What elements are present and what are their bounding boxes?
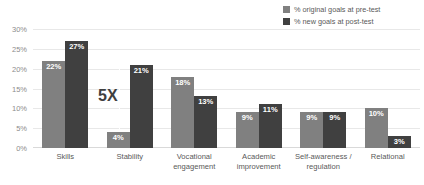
bar-value-label: 3% xyxy=(394,137,405,147)
bar-group-self-awareness-regulation: 9% 9% xyxy=(291,29,356,148)
bar-value-label: 13% xyxy=(198,97,213,107)
x-axis-label-self-awareness-regulation: Self-awareness / regulation xyxy=(291,152,356,172)
bar-value-label: 21% xyxy=(134,66,149,76)
y-tick-label-6: 0% xyxy=(0,144,27,153)
legend-label-series-1: % new goals at post-test xyxy=(294,17,374,26)
bar-academic-improvement-series-1[interactable]: 11% xyxy=(259,104,282,148)
y-tick-label-2: 20% xyxy=(0,64,27,73)
x-axis-label-line: Academic xyxy=(229,152,290,162)
y-tick-label-1: 25% xyxy=(0,44,27,53)
bar-value-label: 22% xyxy=(46,62,61,72)
bar-chart: % original goals at pre-test % new goals… xyxy=(0,0,424,185)
bar-relational-series-1[interactable]: 3% xyxy=(388,136,411,148)
bar-group-skills: 22% 27% xyxy=(33,29,98,148)
bar-value-label: 27% xyxy=(69,42,84,52)
legend-item-original-goals[interactable]: % original goals at pre-test xyxy=(283,4,380,14)
bar-vocational-engagement-series-1[interactable]: 13% xyxy=(194,96,217,148)
bar-value-label: 11% xyxy=(263,105,278,115)
x-axis-label-line: Vocational xyxy=(164,152,225,162)
x-axis-label-vocational-engagement: Vocational engagement xyxy=(162,152,227,172)
y-tick-label-3: 15% xyxy=(0,84,27,93)
legend-item-new-goals[interactable]: % new goals at post-test xyxy=(283,16,380,26)
chart-legend: % original goals at pre-test % new goals… xyxy=(283,4,380,26)
bar-self-awareness-regulation-series-1[interactable]: 9% xyxy=(323,112,346,148)
legend-label-series-0: % original goals at pre-test xyxy=(294,5,380,14)
x-axis-label-line: engagement xyxy=(164,162,225,172)
x-axis-label-line: Stability xyxy=(100,152,161,162)
y-tick-label-4: 10% xyxy=(0,104,27,113)
bar-skills-series-0[interactable]: 22% xyxy=(42,61,65,148)
x-axis-label-line: regulation xyxy=(293,162,354,172)
bar-value-label: 4% xyxy=(113,133,124,143)
x-axis-label-stability: Stability xyxy=(98,152,163,172)
x-axis-label-line: improvement xyxy=(229,162,290,172)
x-axis-label-academic-improvement: Academic improvement xyxy=(227,152,292,172)
x-axis-label-line: Self-awareness / xyxy=(293,152,354,162)
bar-vocational-engagement-series-0[interactable]: 18% xyxy=(171,77,194,148)
bar-stability-series-0[interactable]: 4% xyxy=(107,132,130,148)
bar-value-label: 9% xyxy=(306,113,317,123)
bar-groups: 22% 27% 4% 21% xyxy=(33,29,420,148)
bar-relational-series-0[interactable]: 10% xyxy=(365,108,388,148)
y-tick-label-5: 5% xyxy=(0,124,27,133)
y-tick-label-0: 30% xyxy=(0,25,27,34)
plot-area: 30% 25% 20% 15% 10% 5% 0% 22% 27% xyxy=(33,29,420,148)
bar-group-relational: 10% 3% xyxy=(356,29,421,148)
bar-group-academic-improvement: 9% 11% xyxy=(227,29,292,148)
bar-group-vocational-engagement: 18% 13% xyxy=(162,29,227,148)
bar-value-label: 9% xyxy=(242,113,253,123)
bar-value-label: 9% xyxy=(329,113,340,123)
bar-value-label: 10% xyxy=(369,109,384,119)
legend-swatch-icon-series-1 xyxy=(283,18,290,25)
bar-academic-improvement-series-0[interactable]: 9% xyxy=(236,112,259,148)
legend-swatch-icon-series-0 xyxy=(283,6,290,13)
x-axis-label-line: Skills xyxy=(35,152,96,162)
bar-stability-series-1[interactable]: 21% xyxy=(130,65,153,148)
bar-value-label: 18% xyxy=(175,78,190,88)
bar-group-stability: 4% 21% xyxy=(98,29,163,148)
x-axis-label-line: Relational xyxy=(358,152,419,162)
x-axis-label-relational: Relational xyxy=(356,152,421,172)
x-axis-label-skills: Skills xyxy=(33,152,98,172)
bar-self-awareness-regulation-series-0[interactable]: 9% xyxy=(300,112,323,148)
bar-skills-series-1[interactable]: 27% xyxy=(65,41,88,148)
x-axis-category-labels: Skills Stability Vocational engagement A… xyxy=(33,152,420,172)
